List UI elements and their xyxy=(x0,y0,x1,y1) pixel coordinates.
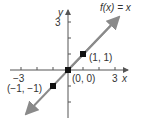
point-label-1-1: (1, 1) xyxy=(89,52,112,63)
x-tick-label-3: 3 xyxy=(112,73,118,84)
point-origin xyxy=(65,67,71,73)
point-label-origin: (0, 0) xyxy=(72,73,95,84)
point-1-1 xyxy=(80,51,86,57)
point-neg1-neg1 xyxy=(50,83,56,89)
function-graph: f(x) = x y 3 x −3 3 (−1, −1) (0, 0) (1, … xyxy=(0,0,142,123)
x-axis-label: x xyxy=(121,73,128,84)
point-label-neg1-neg1: (−1, −1) xyxy=(7,83,42,94)
function-label: f(x) = x xyxy=(100,2,132,13)
y-tick-label-3: 3 xyxy=(55,17,61,28)
